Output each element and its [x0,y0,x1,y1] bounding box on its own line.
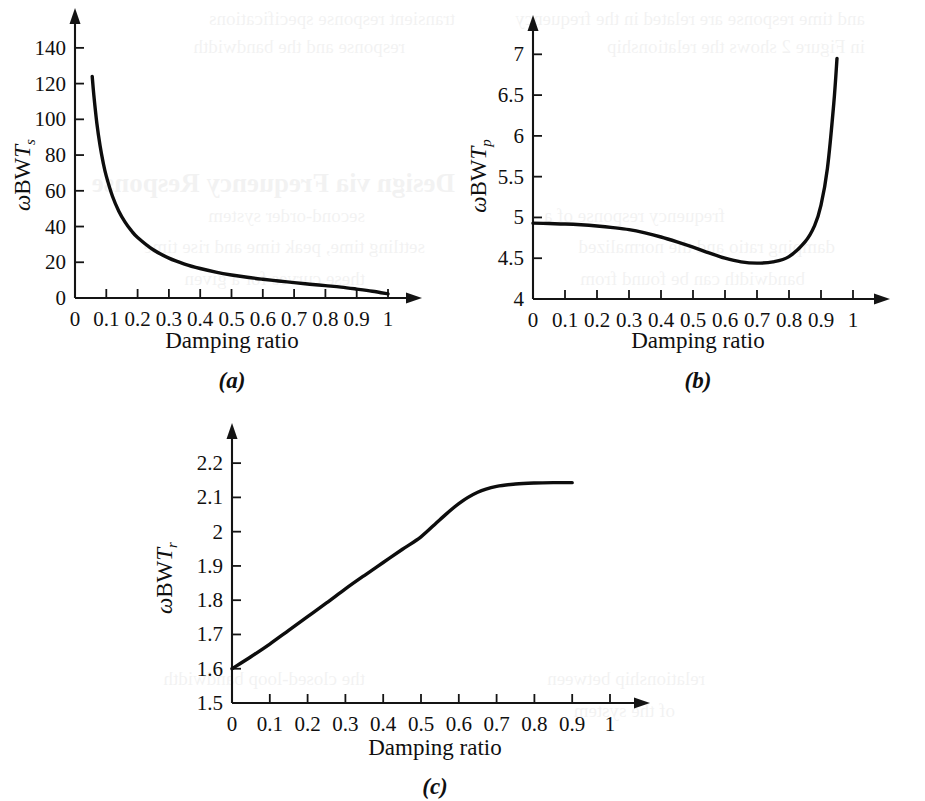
x-axis-title-b: Damping ratio [631,328,765,353]
y-axis-title-b: ωBWTp [466,139,494,213]
x-tick-label-c-3: 0.3 [332,712,358,736]
data-curve-a [92,76,388,293]
tick-group-c [232,463,610,703]
x-tick-label-c-6: 0.6 [446,712,472,736]
data-curve-b [533,58,837,263]
x-axis-arrow-a [406,293,422,304]
y-axis-arrow-a [70,8,81,24]
x-tick-label-a-8: 0.8 [312,307,338,331]
x-tick-label-b-8: 0.8 [776,308,802,332]
y-axis-title-a: ωBWTs [10,139,38,211]
axes-a [70,8,423,304]
x-tick-label-c-7: 0.7 [483,712,509,736]
panel-caption-c: (c) [422,774,448,799]
y-tick-label-c-0: 1.5 [197,691,223,715]
chart-panel-b: 00.10.20.30.40.50.60.70.80.9144.555.566.… [460,0,925,400]
y-tick-label-b-4: 6 [514,124,525,148]
chart-panel-a: 00.10.20.30.40.50.60.70.80.9102040608010… [0,0,460,400]
y-tick-label-a-1: 20 [45,250,66,274]
x-tick-label-c-0: 0 [227,712,238,736]
data-curve-c [232,483,572,669]
x-tick-label-c-5: 0.5 [408,712,434,736]
x-tick-label-c-2: 0.2 [294,712,320,736]
y-tick-label-a-0: 0 [56,286,67,310]
y-tick-label-a-3: 60 [45,179,66,203]
y-axis-arrow-c [227,423,238,439]
y-tick-label-a-7: 140 [35,36,67,60]
figure-root: Design via Frequency Responseand time re… [0,0,925,801]
x-axis-arrow-b [874,294,890,305]
chart-svg-b: 00.10.20.30.40.50.60.70.80.9144.555.566.… [460,0,925,400]
y-tick-label-b-3: 5.5 [498,165,524,189]
x-tick-label-c-9: 0.9 [559,712,585,736]
tick-label-group-c: 00.10.20.30.40.50.60.70.80.911.51.61.71.… [197,451,616,736]
x-tick-label-a-1: 0.1 [93,307,119,331]
y-tick-label-a-4: 80 [45,143,66,167]
x-tick-label-a-0: 0 [70,307,81,331]
x-axis-arrow-c [634,698,650,709]
x-tick-label-b-2: 0.2 [584,308,610,332]
y-tick-label-c-7: 2.2 [197,451,223,475]
y-tick-label-a-6: 120 [35,72,67,96]
chart-svg-c: 00.10.20.30.40.50.60.70.80.911.51.61.71.… [180,400,745,801]
y-tick-label-b-0: 4 [514,287,525,311]
y-tick-label-b-1: 4.5 [498,246,524,270]
x-tick-label-b-1: 0.1 [552,308,578,332]
x-tick-label-a-9: 0.9 [344,307,370,331]
x-axis-title-a: Damping ratio [165,328,299,353]
x-tick-label-b-10: 1 [848,308,859,332]
x-tick-label-c-10: 1 [605,712,616,736]
y-tick-label-c-5: 2 [213,520,224,544]
x-tick-label-c-4: 0.4 [370,712,397,736]
tick-label-group-b: 00.10.20.30.40.50.60.70.80.9144.555.566.… [498,42,859,332]
x-axis-title-c: Damping ratio [368,735,502,760]
y-tick-label-c-1: 1.6 [197,657,223,681]
y-tick-label-c-4: 1.9 [197,554,223,578]
panel-caption-b: (b) [685,368,712,393]
axes-c [227,423,651,709]
y-tick-label-a-5: 100 [35,107,67,131]
y-tick-label-c-3: 1.8 [197,588,223,612]
y-axis-arrow-b [528,15,539,31]
y-tick-label-b-5: 6.5 [498,83,524,107]
y-tick-label-b-2: 5 [514,205,525,229]
x-tick-label-a-2: 0.2 [124,307,150,331]
x-tick-label-b-9: 0.9 [808,308,834,332]
y-tick-label-c-2: 1.7 [197,622,223,646]
y-tick-label-b-6: 7 [514,42,525,66]
x-tick-label-b-0: 0 [528,308,539,332]
x-tick-label-a-10: 1 [383,307,394,331]
y-tick-label-a-2: 40 [45,215,66,239]
x-tick-label-c-1: 0.1 [257,712,283,736]
tick-group-a [75,48,388,298]
chart-panel-c: 00.10.20.30.40.50.60.70.80.911.51.61.71.… [180,400,745,801]
y-axis-title-c: ωBWTr [152,542,180,614]
chart-svg-a: 00.10.20.30.40.50.60.70.80.9102040608010… [0,0,460,400]
panel-caption-a: (a) [219,368,246,393]
tick-group-b [533,54,853,299]
x-tick-label-c-8: 0.8 [521,712,547,736]
y-tick-label-c-6: 2.1 [197,485,223,509]
